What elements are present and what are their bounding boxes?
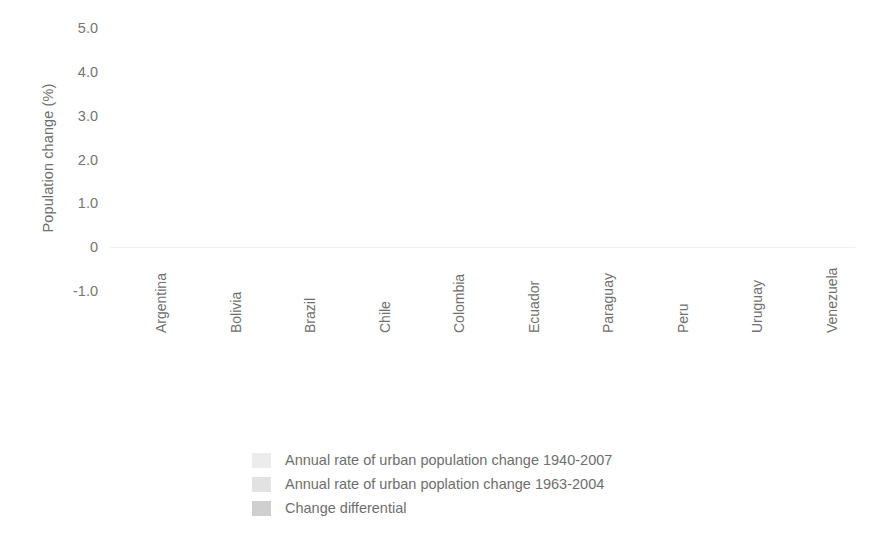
legend-item: Annual rate of urban population change 1…	[252, 448, 612, 472]
x-axis-label-argentina: Argentina	[153, 273, 169, 333]
x-axis-label-uruguay: Uruguay	[749, 280, 765, 333]
x-axis-label-ecuador: Ecuador	[526, 281, 542, 333]
y-tick-label: 1.0	[78, 195, 98, 211]
x-axis-label-peru: Peru	[675, 303, 691, 333]
y-tick-label: 5.0	[78, 20, 98, 36]
x-axis-label-venezuela: Venezuela	[824, 268, 840, 333]
y-tick-label: -1.0	[73, 283, 98, 299]
series-1-swatch	[252, 477, 271, 492]
y-axis-title: Population change (%)	[40, 48, 56, 268]
zero-baseline	[110, 247, 855, 248]
x-axis-label-paraguay: Paraguay	[600, 273, 616, 333]
x-axis-label-brazil: Brazil	[302, 298, 318, 333]
legend-item: Change differential	[252, 496, 612, 520]
legend-label: Annual rate of urban poplation change 19…	[285, 476, 604, 492]
plot-area: 5.04.03.02.01.00-1.0	[110, 28, 855, 313]
x-axis-label-chile: Chile	[377, 301, 393, 333]
y-tick-label: 0	[90, 239, 98, 255]
legend-item: Annual rate of urban poplation change 19…	[252, 472, 612, 496]
x-axis-label-bolivia: Bolivia	[228, 292, 244, 333]
legend-label: Annual rate of urban population change 1…	[285, 452, 612, 468]
y-tick-label: 2.0	[78, 152, 98, 168]
chart-legend: Annual rate of urban population change 1…	[252, 448, 612, 520]
y-tick-label: 4.0	[78, 64, 98, 80]
chart-figure: Population change (%) 5.04.03.02.01.00-1…	[0, 0, 869, 551]
y-tick-label: 3.0	[78, 108, 98, 124]
x-axis-label-colombia: Colombia	[451, 274, 467, 333]
series-2-swatch	[252, 501, 271, 516]
legend-label: Change differential	[285, 500, 406, 516]
series-0-swatch	[252, 453, 271, 468]
